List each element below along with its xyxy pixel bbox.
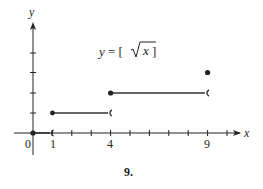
- formula-radicand: x: [142, 43, 149, 58]
- tick-label-0: 0: [25, 137, 31, 151]
- tick-label-1: 1: [50, 137, 56, 151]
- closed-endpoints: [30, 70, 210, 136]
- figure-caption: 9.: [124, 165, 133, 179]
- open-end-4-1: [110, 110, 112, 116]
- axes: [14, 28, 240, 155]
- closed-dot-9-3: [205, 70, 210, 75]
- closed-dot-4-2: [108, 90, 113, 95]
- step-function-graph: y x 0 1 4 9 y = [ x ] 9.: [0, 0, 263, 189]
- open-end-9-2: [207, 90, 209, 96]
- formula: y = [ x ]: [97, 42, 156, 59]
- formula-prefix: y = [: [97, 44, 123, 59]
- step-segments: [33, 93, 205, 133]
- x-axis-label: x: [243, 126, 250, 140]
- formula-suffix: ]: [152, 44, 156, 59]
- tick-label-4: 4: [107, 137, 113, 151]
- closed-dot-1-1: [50, 111, 55, 116]
- closed-dot-0-0: [30, 130, 35, 135]
- y-axis-label: y: [28, 5, 35, 19]
- tick-label-9: 9: [204, 137, 210, 151]
